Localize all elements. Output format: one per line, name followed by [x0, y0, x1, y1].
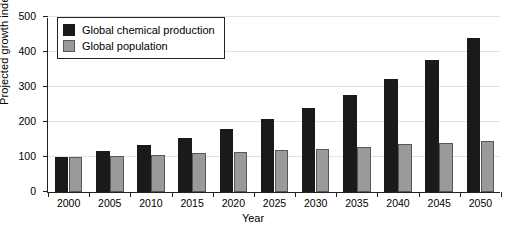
- bar-2020-chemical-production: [220, 129, 234, 192]
- bar-2005-population: [110, 156, 124, 192]
- y-tick-label-300: 300: [18, 81, 36, 92]
- legend-swatch-icon-chemical-production: [63, 24, 75, 36]
- x-tick-origin: [48, 192, 49, 197]
- chart-legend: Global chemical production Global popula…: [57, 17, 225, 59]
- y-axis-title: Projected growth index: [0, 0, 10, 105]
- bar-2000-chemical-production: [55, 157, 69, 192]
- x-tick-2035: [377, 192, 378, 197]
- y-tick-label-200: 200: [18, 116, 36, 127]
- x-tick-label-2030: 2030: [304, 198, 327, 209]
- y-tick-500: 500: [43, 16, 48, 17]
- bar-2000-population: [69, 157, 83, 192]
- bar-2050-chemical-production: [467, 38, 481, 192]
- bar-2015-population: [192, 153, 206, 192]
- x-tick-label-2045: 2045: [428, 198, 451, 209]
- bar-2030-chemical-production: [302, 108, 316, 192]
- legend-item-chemical-production: Global chemical production: [63, 22, 215, 38]
- x-tick-label-2040: 2040: [386, 198, 409, 209]
- legend-label-population: Global population: [82, 41, 168, 52]
- bar-chart: Projected growth index 0 100 200 300 400…: [0, 0, 506, 232]
- legend-item-population: Global population: [63, 38, 215, 54]
- x-tick-label-2025: 2025: [263, 198, 286, 209]
- bar-2020-population: [234, 152, 248, 192]
- y-tick-label-0: 0: [30, 186, 36, 197]
- x-axis-title: Year: [0, 212, 506, 224]
- bar-2035-chemical-production: [343, 95, 357, 192]
- bar-2045-chemical-production: [425, 60, 439, 192]
- x-tick-2000: [89, 192, 90, 197]
- x-tick-2045: [460, 192, 461, 197]
- bar-2015-chemical-production: [178, 138, 192, 192]
- x-tick-2050: [501, 192, 502, 197]
- bar-2025-chemical-production: [261, 119, 275, 192]
- bar-2010-chemical-production: [137, 145, 151, 192]
- bar-2040-chemical-production: [384, 79, 398, 192]
- x-tick-2005: [130, 192, 131, 197]
- bar-2030-population: [316, 149, 330, 192]
- x-tick-2030: [336, 192, 337, 197]
- x-tick-2025: [295, 192, 296, 197]
- bar-2050-population: [481, 141, 495, 192]
- x-tick-label-2035: 2035: [345, 198, 368, 209]
- bar-2005-chemical-production: [96, 151, 110, 192]
- y-tick-label-500: 500: [18, 11, 36, 22]
- bar-2045-population: [439, 143, 453, 192]
- x-tick-label-2010: 2010: [139, 198, 162, 209]
- x-tick-label-2005: 2005: [98, 198, 121, 209]
- x-tick-2015: [213, 192, 214, 197]
- legend-swatch-icon-population: [63, 40, 75, 52]
- legend-label-chemical-production: Global chemical production: [82, 25, 215, 36]
- x-tick-label-2050: 2050: [469, 198, 492, 209]
- bar-2040-population: [398, 144, 412, 192]
- bar-2035-population: [357, 147, 371, 193]
- y-tick-label-100: 100: [18, 151, 36, 162]
- x-tick-label-2000: 2000: [57, 198, 80, 209]
- bar-2025-population: [275, 150, 289, 192]
- x-tick-2020: [254, 192, 255, 197]
- y-tick-label-400: 400: [18, 46, 36, 57]
- bar-2010-population: [151, 155, 165, 192]
- x-tick-2040: [419, 192, 420, 197]
- x-tick-2010: [172, 192, 173, 197]
- x-tick-label-2015: 2015: [180, 198, 203, 209]
- x-tick-label-2020: 2020: [222, 198, 245, 209]
